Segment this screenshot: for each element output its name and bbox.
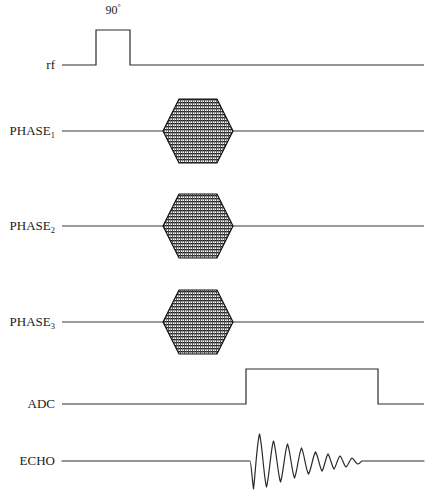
channel-label-rf: rf bbox=[46, 57, 55, 72]
echo-signal-trace bbox=[62, 434, 424, 489]
channel-label-adc: ADC bbox=[28, 396, 55, 411]
channel-label-phase3: PHASE3 bbox=[10, 314, 55, 331]
phase3-gradient-hexagon bbox=[163, 290, 233, 354]
channel-label-phase2: PHASE2 bbox=[10, 218, 55, 235]
adc-window-waveform bbox=[62, 369, 424, 404]
phase2-gradient-hexagon bbox=[163, 194, 233, 258]
channel-label-phase1: PHASE1 bbox=[10, 123, 55, 140]
channel-phase2: PHASE2 bbox=[10, 194, 424, 258]
rf-flip-angle-annotation: 90° bbox=[105, 3, 120, 17]
sequence-canvas: rf 90° PHASE1 PHASE2 PHASE3 ADC bbox=[0, 0, 436, 495]
channel-echo: ECHO bbox=[20, 434, 424, 489]
channel-rf: rf 90° bbox=[46, 3, 424, 72]
pulse-sequence-diagram: rf 90° PHASE1 PHASE2 PHASE3 ADC bbox=[0, 0, 436, 495]
rf-waveform bbox=[62, 30, 424, 65]
channel-label-echo: ECHO bbox=[20, 453, 55, 468]
channel-adc: ADC bbox=[28, 369, 424, 411]
channel-phase3: PHASE3 bbox=[10, 290, 424, 354]
phase1-gradient-hexagon bbox=[163, 99, 233, 163]
channel-phase1: PHASE1 bbox=[10, 99, 424, 163]
